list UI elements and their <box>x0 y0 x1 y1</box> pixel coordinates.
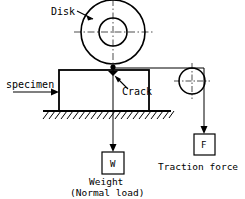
schematic-diagram: Disk <box>0 0 245 199</box>
traction-caption-group: Traction force <box>158 161 238 172</box>
specimen-label-group: specimen <box>6 79 59 96</box>
traction-force-caption: Traction force <box>158 161 238 172</box>
weight-caption-line1: Weight <box>89 176 123 187</box>
traction-cord-group <box>113 68 208 134</box>
normal-load-group <box>110 67 117 152</box>
weight-box-group: W <box>102 152 124 174</box>
weight-box-label: W <box>110 159 116 169</box>
force-box-group: F <box>194 134 215 155</box>
schematic-svg: Disk <box>0 0 245 199</box>
disk-group <box>74 0 154 67</box>
specimen-leader-arrowhead <box>51 89 59 96</box>
weight-caption-line2: (Normal load) <box>70 187 144 198</box>
disk-label: Disk <box>51 6 75 17</box>
ground-group <box>43 111 174 119</box>
weight-caption-group: Weight (Normal load) <box>70 176 144 198</box>
normal-load-arrowhead <box>110 144 117 152</box>
force-box-label: F <box>201 140 206 150</box>
traction-cord-arrowhead <box>201 126 208 134</box>
ground-hatching <box>43 111 174 119</box>
crack-label-group: Crack <box>115 76 153 98</box>
specimen-label: specimen <box>6 79 54 90</box>
